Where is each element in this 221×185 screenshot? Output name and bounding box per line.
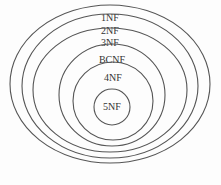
ring-2nf: 2NF bbox=[22, 14, 198, 158]
label-4nf: 4NF bbox=[104, 72, 122, 83]
ring-3nf: 3NF bbox=[33, 28, 187, 152]
label-5nf: 5NF bbox=[103, 101, 121, 112]
label-2nf: 2NF bbox=[101, 25, 119, 36]
ring-bcnf: BCNF bbox=[59, 44, 165, 146]
ring-5nf: 5NF bbox=[94, 89, 130, 125]
normal-forms-diagram: 1NF 2NF 3NF BCNF 4NF 5NF bbox=[0, 0, 221, 185]
label-3nf: 3NF bbox=[101, 37, 119, 48]
